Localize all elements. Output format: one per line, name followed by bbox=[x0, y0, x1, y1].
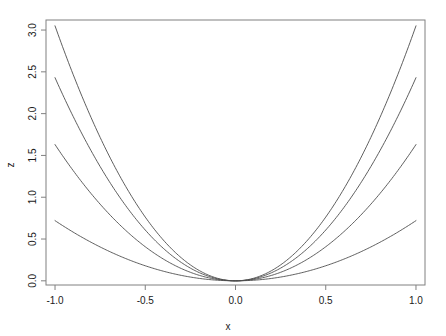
y-tick-label: 3.0 bbox=[28, 23, 39, 37]
x-tick-label: 0.0 bbox=[229, 295, 243, 306]
y-axis-title: z bbox=[5, 163, 16, 168]
y-tick-label: 2.0 bbox=[28, 106, 39, 120]
y-tick-label: 1.0 bbox=[28, 190, 39, 204]
y-tick-label: 0.5 bbox=[28, 232, 39, 246]
figure-background bbox=[0, 0, 446, 336]
x-tick-label: -0.5 bbox=[137, 295, 155, 306]
y-tick-label: 1.5 bbox=[28, 148, 39, 162]
x-tick-label: -1.0 bbox=[46, 295, 64, 306]
x-axis-title: x bbox=[226, 321, 231, 332]
x-tick-label: 0.5 bbox=[319, 295, 333, 306]
x-tick-label: 1.0 bbox=[409, 295, 423, 306]
plot-canvas: -1.0-0.50.00.51.0 0.00.51.01.52.02.53.0 … bbox=[0, 0, 446, 336]
chart-figure: -1.0-0.50.00.51.0 0.00.51.01.52.02.53.0 … bbox=[0, 0, 446, 336]
y-tick-label: 2.5 bbox=[28, 64, 39, 78]
y-tick-label: 0.0 bbox=[28, 273, 39, 287]
